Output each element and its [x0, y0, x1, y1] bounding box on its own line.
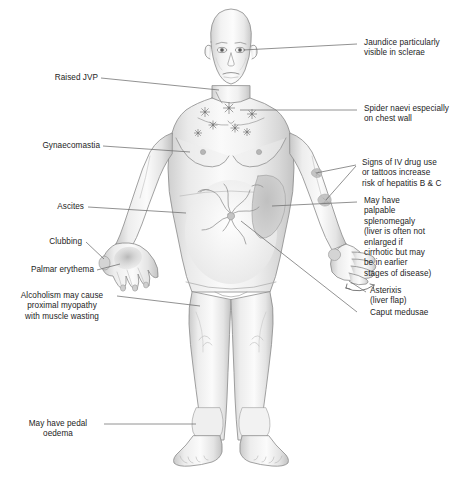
label-raised-jvp: Raised JVP [6, 73, 98, 83]
label-iv-drug-use: Signs of IV drug use or tattoos increase… [362, 158, 462, 189]
label-spider-naevi: Spider naevi especially on chest wall [364, 104, 460, 125]
label-clubbing: Clubbing [6, 237, 82, 247]
label-pedal-oedema: May have pedal oedema [12, 419, 104, 440]
label-splenomegaly: May have palpable splenomegaly (liver is… [364, 196, 458, 279]
label-gynaecomastia: Gynaecomastia [6, 141, 100, 151]
label-ascites: Ascites [6, 202, 84, 212]
liver-disease-diagram: Jaundice particularly visible in sclerae… [0, 0, 462, 478]
label-alcoholism-myopathy: Alcoholism may cause proximal myopathy w… [6, 291, 118, 322]
label-asterixis: Asterixis (liver flap) [370, 286, 460, 307]
label-caput-medusae: Caput medusae [370, 308, 460, 318]
label-palmar-erythema: Palmar erythema [4, 265, 94, 275]
label-jaundice: Jaundice particularly visible in sclerae [364, 38, 460, 59]
